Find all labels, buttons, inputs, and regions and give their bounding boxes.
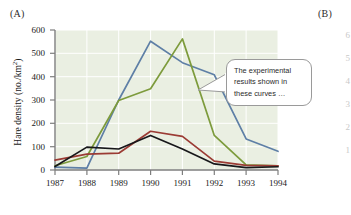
y-tick-label-500: 500	[21, 48, 45, 58]
y-tick-label-400: 400	[21, 72, 45, 82]
figure-b-tick-6: 6	[346, 30, 351, 40]
figure-b-tick-1: 1	[346, 145, 351, 155]
x-tick-label-1992: 1992	[199, 178, 229, 188]
x-tick-label-1991: 1991	[167, 178, 197, 188]
figure-b-tick-4: 4	[346, 76, 351, 86]
figure-a-hare-density-chart: Hare density (no./km2)	[0, 18, 300, 215]
figure-b-tick-5: 5	[346, 53, 351, 63]
y-tick-label-0: 0	[21, 165, 45, 175]
y-tick-label-100: 100	[21, 142, 45, 152]
x-axis-ticks	[55, 170, 278, 175]
y-tick-label-200: 200	[21, 118, 45, 128]
figure-b-cropped: 6 5 4 3 2 1	[300, 18, 351, 215]
figure-b-tick-2: 2	[346, 122, 351, 132]
y-tick-label-600: 600	[21, 25, 45, 35]
x-tick-label-1994: 1994	[263, 178, 293, 188]
x-tick-label-1990: 1990	[136, 178, 166, 188]
callout-annotation-box: The experimental results shown in these …	[226, 59, 312, 106]
callout-annotation-text: The experimental results shown in these …	[234, 65, 305, 99]
x-tick-label-1988: 1988	[72, 178, 102, 188]
x-tick-label-1987: 1987	[40, 178, 70, 188]
y-tick-label-300: 300	[21, 95, 45, 105]
x-tick-label-1993: 1993	[231, 178, 261, 188]
y-axis-ticks	[50, 30, 55, 170]
figure-b-tick-3: 3	[346, 99, 351, 109]
x-tick-label-1989: 1989	[104, 178, 134, 188]
